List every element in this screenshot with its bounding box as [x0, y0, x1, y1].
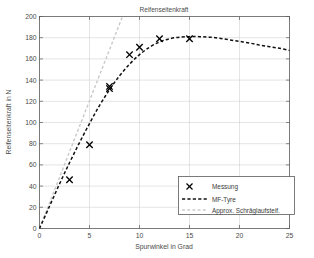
y-tick-label: 60	[29, 161, 37, 168]
x-axis-label-group: Spurwinkel in Grad	[135, 243, 193, 251]
legend-label-mf-tyre: MF-Tyre	[212, 196, 236, 204]
x-axis-label: Spurwinkel in Grad	[135, 243, 193, 251]
y-axis-label: Reifenseitenkraft in N	[5, 89, 12, 154]
chart-title-group: Reifenseitenkraft	[140, 6, 189, 13]
figure-canvas: Reifenseitenkraft 0510152025 02040608010…	[0, 0, 314, 258]
x-tick-labels: 0510152025	[38, 232, 294, 239]
y-tick-label: 140	[25, 77, 37, 84]
y-tick-label: 160	[25, 55, 37, 62]
y-tick-label: 100	[25, 119, 37, 126]
chart-title: Reifenseitenkraft	[140, 6, 189, 13]
messung-markers	[66, 36, 192, 183]
legend-label-approx: Approx. Schräglaufsteif.	[212, 207, 280, 215]
y-axis-label-group: Reifenseitenkraft in N	[5, 89, 12, 154]
marker-x	[66, 177, 72, 183]
y-tick-labels: 020406080100120140160180200	[25, 13, 37, 232]
x-tick-label: 25	[286, 232, 294, 239]
y-tick-label: 180	[25, 34, 37, 41]
x-tick-label: 10	[136, 232, 144, 239]
marker-x	[156, 36, 162, 42]
chart-svg: Reifenseitenkraft 0510152025 02040608010…	[0, 0, 314, 258]
y-tick-label: 200	[25, 13, 37, 20]
y-tick-label: 40	[29, 183, 37, 190]
x-tick-label: 0	[38, 232, 42, 239]
y-tick-label: 80	[29, 140, 37, 147]
marker-x	[126, 51, 132, 57]
x-tick-label: 20	[236, 232, 244, 239]
x-tick-label: 5	[88, 232, 92, 239]
legend-label-messung: Messung	[212, 183, 238, 191]
legend[interactable]: Messung MF-Tyre Approx. Schräglaufsteif.	[179, 177, 295, 215]
y-tick-label: 20	[29, 204, 37, 211]
y-tick-label: 0	[33, 225, 37, 232]
x-tick-label: 15	[186, 232, 194, 239]
y-tick-label: 120	[25, 98, 37, 105]
